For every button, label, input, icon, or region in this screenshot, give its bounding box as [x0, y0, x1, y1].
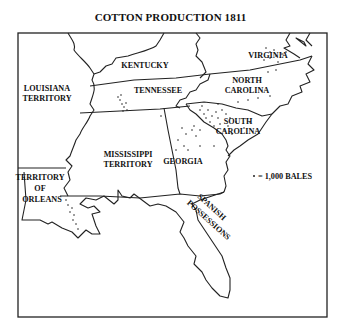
legend-dot-icon	[253, 175, 255, 177]
label-south-carolina-1: SOUTH	[224, 117, 253, 126]
cotton-dots-georgia	[175, 125, 215, 151]
nc-sc-border	[186, 102, 272, 116]
legend-text: = 1,000 BALES	[258, 172, 312, 181]
label-georgia: GEORGIA	[163, 157, 203, 166]
label-territory-of-orleans-2: OF	[34, 184, 45, 193]
virginia-coast	[284, 33, 312, 58]
label-territory-of-orleans-1: TERRITORY	[15, 173, 64, 182]
orleans-gulf-coast	[22, 172, 230, 298]
label-tennessee: TENNESSEE	[134, 86, 183, 95]
cotton-dots-orleans	[65, 199, 79, 230]
cotton-dots-tennessee	[117, 94, 162, 117]
ga-ms-border	[164, 108, 180, 194]
label-south-carolina-2: CAROLINA	[216, 127, 261, 136]
tn-south-border	[80, 106, 190, 113]
label-kentucky: KENTUCKY	[121, 61, 168, 70]
label-north-carolina-1: NORTH	[232, 76, 262, 85]
label-territory-of-orleans-3: ORLEANS	[22, 195, 62, 204]
label-louisiana-territory-1: LOUISIANA	[24, 84, 70, 93]
legend: = 1,000 BALES	[253, 172, 312, 181]
label-virginia: VIRGINIA	[248, 51, 288, 60]
label-north-carolina-2: CAROLINA	[225, 86, 270, 95]
map: VIRGINIA KENTUCKY LOUISIANA TERRITORY TE…	[0, 0, 341, 333]
label-mississippi-territory-1: MISSISSIPPI	[104, 150, 153, 159]
label-mississippi-territory-2: TERRITORY	[103, 160, 152, 169]
mississippi-river	[64, 33, 94, 196]
label-louisiana-territory-2: TERRITORY	[22, 94, 71, 103]
kentucky-east-border	[196, 33, 206, 78]
